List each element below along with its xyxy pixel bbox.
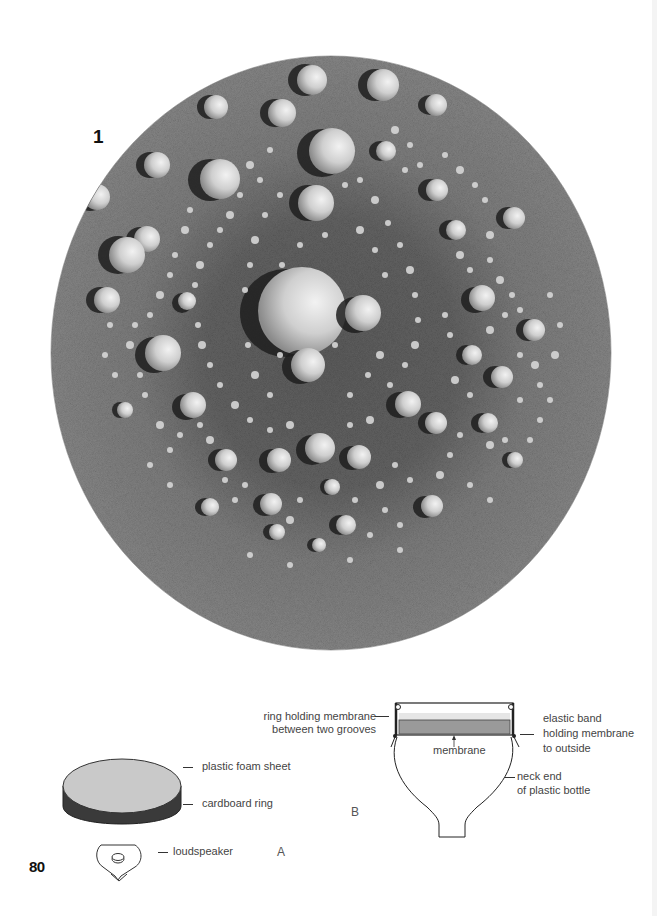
cymatics-photo (50, 55, 612, 651)
arrow-ring (183, 804, 193, 805)
page-edge (652, 0, 657, 916)
arrow-speaker (158, 852, 168, 853)
arrow-elastic-band (520, 734, 534, 735)
panel-letter-b: B (351, 805, 359, 819)
panel-letter-a: A (277, 845, 285, 859)
label-neck-line2: of plastic bottle (517, 784, 590, 797)
label-neck-line1: neck end (517, 770, 562, 783)
label-elastic-line3: to outside (543, 742, 591, 755)
diagram-b-bottle-membrane (385, 695, 545, 840)
label-ring-line2: between two grooves (258, 723, 376, 736)
label-loudspeaker: loudspeaker (173, 845, 233, 858)
label-plastic-foam-sheet: plastic foam sheet (202, 760, 291, 773)
diagram-a-speaker-assembly (55, 750, 195, 885)
arrow-foam (183, 767, 193, 768)
label-cardboard-ring: cardboard ring (202, 797, 273, 810)
label-membrane: membrane (433, 744, 486, 757)
page-number: 80 (29, 858, 45, 875)
arrow-ring-holding (375, 716, 389, 717)
label-ring-line1: ring holding membrane (258, 710, 376, 723)
arrow-neck-end (505, 777, 515, 778)
label-elastic-line1: elastic band (543, 712, 602, 725)
label-elastic-line2: holding membrane (543, 727, 634, 740)
